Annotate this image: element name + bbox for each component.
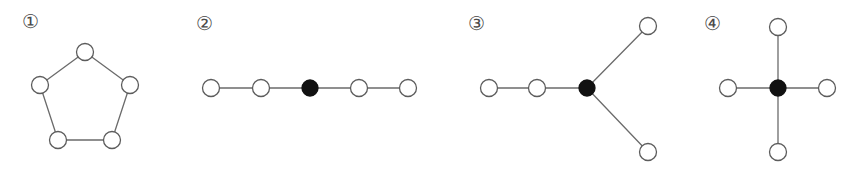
fig4-node-top xyxy=(770,19,787,36)
figure-2 xyxy=(203,80,417,97)
fig3-node-upper-right xyxy=(640,18,657,35)
figure-1 xyxy=(32,44,139,149)
fig2-node-2 xyxy=(253,80,270,97)
fig3-node-lower-right xyxy=(640,144,657,161)
fig1-node-left xyxy=(32,77,49,94)
fig4-node-center xyxy=(770,80,786,96)
fig2-node-4 xyxy=(351,80,368,97)
fig3-node-far-left xyxy=(481,80,498,97)
circled-three: ③ xyxy=(468,14,485,33)
fig3-node-center xyxy=(579,80,595,96)
fig1-node-top xyxy=(77,44,94,61)
fig3-edge-center-upper xyxy=(587,26,648,88)
figure-board: ①②③④ xyxy=(0,0,848,179)
fig3-node-left xyxy=(529,80,546,97)
fig2-node-center xyxy=(302,80,318,96)
figure-4 xyxy=(720,19,836,161)
figure-3 xyxy=(481,18,657,161)
fig4-node-bottom xyxy=(770,144,787,161)
fig1-node-bottom-right xyxy=(104,132,121,149)
fig1-node-right xyxy=(122,77,139,94)
circled-two: ② xyxy=(196,14,213,33)
fig2-node-5 xyxy=(400,80,417,97)
circled-one: ① xyxy=(22,12,39,31)
fig1-node-bottom-left xyxy=(50,132,67,149)
fig3-edge-center-lower xyxy=(587,88,648,152)
fig4-node-left xyxy=(720,80,737,97)
circled-four: ④ xyxy=(704,14,721,33)
fig4-node-right xyxy=(819,80,836,97)
fig2-node-1 xyxy=(203,80,220,97)
